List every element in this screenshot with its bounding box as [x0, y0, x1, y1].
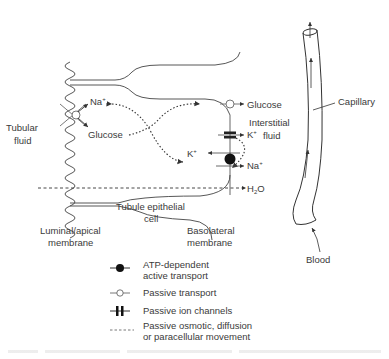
legend-passive-movement-label-2: or paracellular movement	[143, 331, 251, 342]
label-cell: Tubule epithelial	[116, 201, 185, 212]
label-k-in: K+	[187, 148, 197, 159]
legend-passive-transport-label: Passive transport	[143, 287, 217, 298]
label-interstitial-fluid-2: fluid	[263, 130, 280, 141]
apical-membrane-wave	[65, 62, 75, 238]
label-luminal-membrane: Luminal/apical	[40, 225, 101, 236]
legend-active-transport-label-2: active transport	[143, 270, 208, 281]
label-baso-glucose: Glucose	[247, 99, 282, 110]
label-apical-glucose: Glucose	[88, 129, 123, 140]
potassium-ion-channel	[218, 132, 244, 139]
label-tubular-fluid-2: fluid	[14, 135, 31, 146]
label-tubular-fluid: Tubular	[6, 122, 38, 133]
renal-tubule-transport-diagram: Tubular fluid Na+ Glucose Glucose K+ K+ …	[0, 0, 389, 359]
label-k-out: K+	[247, 129, 257, 140]
cropped-caption-remnant	[8, 350, 381, 353]
label-luminal-membrane-2: membrane	[48, 237, 93, 248]
label-baso-na: Na+	[247, 160, 263, 171]
basolateral-glucose-transporter	[220, 100, 244, 108]
label-capillary: Capillary	[338, 96, 375, 107]
label-apical-na: Na+	[90, 96, 106, 107]
legend-active-transport-symbol	[110, 264, 130, 272]
legend: ATP-dependent active transport Passive t…	[110, 259, 252, 342]
legend-ion-channel-label: Passive ion channels	[143, 305, 232, 316]
label-blood: Blood	[306, 254, 330, 265]
na-k-atpase-pump	[208, 153, 244, 166]
legend-ion-channel-symbol	[110, 306, 130, 316]
label-cell-2: cell	[144, 213, 158, 224]
label-water: H2O	[247, 183, 265, 195]
capillary-vessel	[293, 28, 322, 225]
label-basolateral-membrane: Basolateral	[187, 225, 235, 236]
label-basolateral-membrane-2: membrane	[187, 237, 232, 248]
label-interstitial-fluid: Interstitial	[249, 117, 290, 128]
legend-passive-movement-label: Passive osmotic, diffusion	[143, 320, 252, 331]
legend-active-transport-label: ATP-dependent	[143, 259, 209, 270]
legend-passive-transport-symbol	[110, 290, 130, 296]
